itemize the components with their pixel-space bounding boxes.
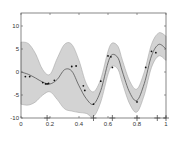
data-point: [100, 80, 102, 82]
data-point: [151, 50, 153, 52]
data-point: [136, 101, 138, 103]
x-tick-label: 0: [19, 121, 23, 127]
data-point: [82, 85, 84, 87]
y-tick-label: -10: [10, 115, 19, 121]
data-point: [111, 67, 113, 69]
y-tick-label: 10: [12, 23, 19, 29]
x-tick-label: 0.6: [104, 121, 113, 127]
data-point: [145, 67, 147, 69]
gp-regression-chart: 00.20.40.60.81 -10-50510: [0, 0, 176, 142]
data-point: [48, 83, 50, 85]
data-point: [107, 55, 109, 57]
x-tick-label: 0.2: [46, 121, 55, 127]
data-point: [29, 76, 31, 78]
x-tick-label: 1: [164, 121, 168, 127]
data-point: [24, 76, 26, 78]
x-tick-label: 0.4: [75, 121, 84, 127]
data-point: [71, 66, 73, 68]
y-tick-label: 5: [16, 46, 20, 52]
data-point: [42, 82, 44, 84]
data-point: [53, 79, 55, 81]
data-point: [93, 103, 95, 105]
x-tick-label: 0.8: [133, 121, 142, 127]
y-tick-label: 0: [16, 69, 20, 75]
data-point: [110, 56, 112, 58]
y-tick-label: -5: [14, 92, 20, 98]
data-point: [84, 90, 86, 92]
data-point: [155, 52, 157, 54]
data-point: [75, 65, 77, 67]
